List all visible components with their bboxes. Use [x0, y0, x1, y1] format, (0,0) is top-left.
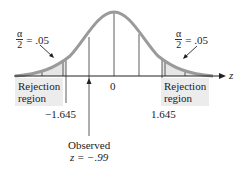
axis-arrow-icon	[219, 73, 226, 79]
observed-z-label: Observed z = −.99	[68, 139, 110, 163]
right-alpha-label: α2 = .05	[175, 29, 208, 50]
critical-value-left: −1.645	[45, 108, 76, 120]
critical-value-right: 1.645	[151, 108, 176, 120]
left-rejection-region-label: Rejection region	[15, 78, 63, 106]
center-tick-label: 0	[110, 80, 116, 92]
right-rejection-region-label: Rejection region	[161, 78, 209, 106]
z-axis-label: z	[229, 69, 233, 81]
left-alpha-label: α2 = .05	[16, 29, 49, 50]
observed-arrow-icon	[87, 78, 92, 84]
